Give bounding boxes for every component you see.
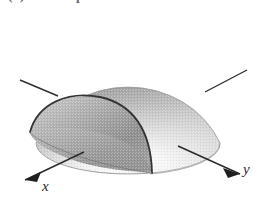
figure-panel: (a)Hemisphere — [0, 0, 272, 208]
y-axis-label: y — [243, 161, 250, 178]
upper-left-axis-stub — [20, 80, 58, 96]
upper-right-axis-stub — [205, 70, 247, 92]
x-axis-label: x — [42, 178, 49, 195]
hemisphere-diagram — [0, 0, 272, 208]
